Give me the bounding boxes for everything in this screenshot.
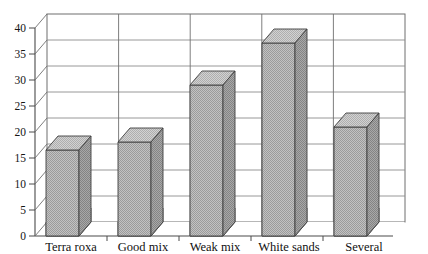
bar-front-face — [190, 85, 223, 236]
category-label-weak-mix: Weak mix — [190, 240, 241, 254]
bar-side-face — [367, 113, 379, 236]
bar-white-sands[interactable] — [262, 29, 307, 236]
ytick-label-30: 30 — [15, 74, 27, 86]
ytick-label-0: 0 — [20, 230, 26, 242]
category-label-several: Several — [345, 240, 383, 254]
ytick-label-5: 5 — [20, 204, 26, 216]
category-label-good-mix: Good mix — [118, 240, 169, 254]
bar-front-face — [262, 43, 295, 236]
bar-side-face — [295, 29, 307, 236]
bar-several[interactable] — [334, 113, 379, 236]
bar-weak-mix[interactable] — [190, 71, 235, 236]
ytick-label-15: 15 — [15, 152, 27, 164]
ytick-label-10: 10 — [15, 178, 27, 190]
bar-side-face — [79, 136, 91, 236]
chart-canvas: 40 35 30 25 20 15 10 5 0 — [0, 0, 428, 254]
bar-chart: 40 35 30 25 20 15 10 5 0 — [0, 0, 428, 254]
category-label-white-sands: White sands — [258, 240, 320, 254]
bar-front-face — [46, 150, 79, 236]
category-label-terra-roxa: Terra roxa — [45, 240, 97, 254]
bar-front-face — [118, 142, 151, 236]
ytick-label-20: 20 — [15, 126, 27, 138]
ytick-label-35: 35 — [15, 48, 27, 60]
bar-side-face — [151, 128, 163, 236]
bar-good-mix[interactable] — [118, 128, 163, 236]
bar-terra-roxa[interactable] — [46, 136, 91, 236]
ytick-label-25: 25 — [15, 100, 27, 112]
bar-side-face — [223, 71, 235, 236]
ytick-label-40: 40 — [15, 22, 27, 34]
bar-front-face — [334, 127, 367, 236]
